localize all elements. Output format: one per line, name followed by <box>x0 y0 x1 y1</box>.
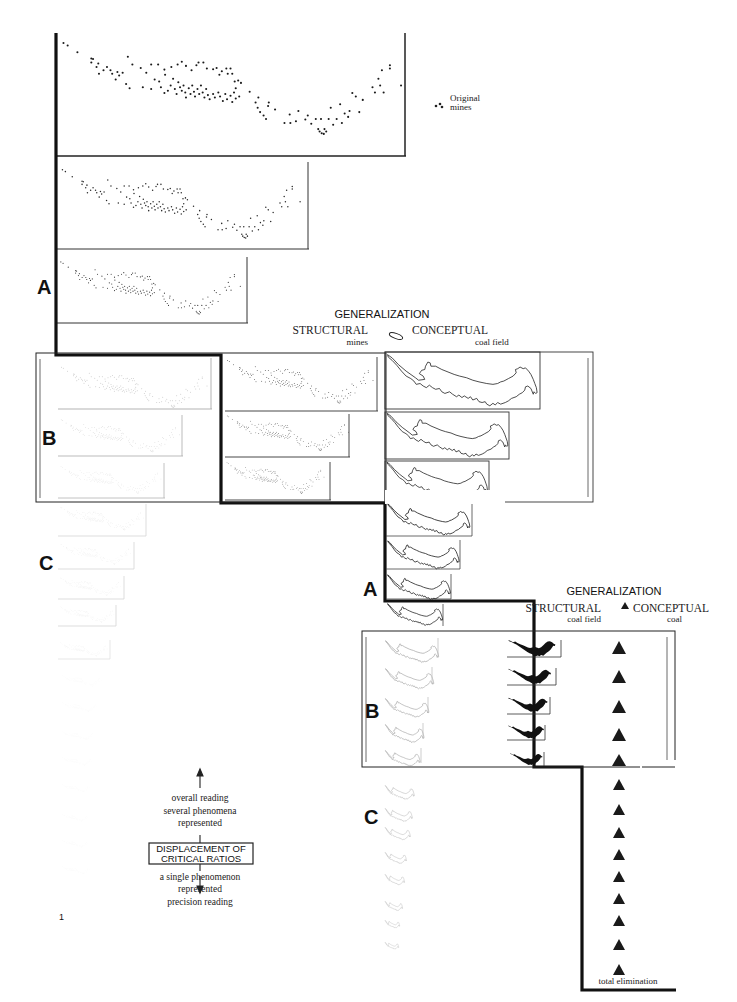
conceptual-coalfield-frame-1 <box>385 352 540 409</box>
label-a-top: A <box>37 276 51 298</box>
faded-coalfield-c-series <box>385 785 414 949</box>
faded-mines-c-tail <box>62 675 101 874</box>
faded-mines-frame-2 <box>58 415 183 456</box>
conceptual-coal-triangles <box>612 641 626 975</box>
label-b-bottom: B <box>365 700 379 722</box>
represented-top-label: represented <box>178 818 222 828</box>
label-b-top: B <box>42 427 56 449</box>
overall-reading-label: overall reading <box>171 793 228 803</box>
precision-reading-label: precision reading <box>167 897 233 907</box>
several-phenomena-label: several phenomena <box>163 806 237 816</box>
section-b-box-bottom <box>362 631 675 767</box>
label-c-left: C <box>39 552 53 574</box>
label-a-mid: A <box>363 578 377 600</box>
coalfield-a-series <box>386 504 472 600</box>
conceptual-label-1: CONCEPTUAL <box>412 324 488 336</box>
conceptual-label-2: CONCEPTUAL <box>633 602 709 614</box>
legend-mines-label: mines <box>450 102 472 112</box>
triangle-legend-icon <box>621 602 629 609</box>
faded-mines-c-series <box>58 504 146 659</box>
page-number: 1 <box>59 912 64 922</box>
faded-mines-frame-3 <box>58 463 165 498</box>
coalfield-legend-icon <box>389 331 404 340</box>
generalization-title-2: GENERALIZATION <box>566 585 661 597</box>
original-mines-frame-3 <box>57 257 248 323</box>
represented-bottom-label: represented <box>178 884 222 894</box>
structural-mines-frame-1 <box>225 357 378 411</box>
original-mines-frame-2 <box>57 162 309 249</box>
structural-mines-frame-2 <box>225 414 350 457</box>
structural-sub-2: coal field <box>567 614 601 624</box>
generalization-title-1: GENERALIZATION <box>334 308 429 320</box>
structural-label-2: STRUCTURAL <box>526 602 601 614</box>
single-phenomenon-label: a single phenomenon <box>160 872 241 882</box>
conceptual-coalfield-frame-2 <box>385 412 509 459</box>
conceptual-sub-2: coal <box>667 614 682 624</box>
legend-original-mines <box>435 103 444 109</box>
conceptual-sub-1: coal field <box>475 337 509 347</box>
structural-mines-frame-3 <box>225 462 331 500</box>
coalfield-a-series-2 <box>388 604 443 626</box>
original-mines-frame-1 <box>56 33 406 156</box>
structural-sub-1: mines <box>347 337 369 347</box>
faded-mines-frame-1 <box>58 358 212 409</box>
generalization-diagram: A B C A B C Original mines GENERALIZATIO… <box>0 0 737 1002</box>
total-elimination-label: total elimination <box>598 976 658 986</box>
displacement-line2: CRITICAL RATIOS <box>161 853 241 864</box>
label-c-bottom: C <box>364 806 378 828</box>
structural-label-1: STRUCTURAL <box>293 324 368 336</box>
faded-coalfield-series <box>385 638 438 766</box>
